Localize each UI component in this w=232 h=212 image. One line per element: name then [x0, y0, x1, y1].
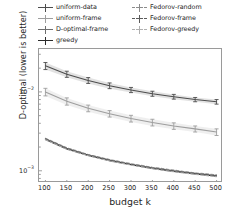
legend-entry-label: D-optimal-frame	[56, 26, 108, 33]
legend-entry-label: greedy	[56, 37, 78, 44]
chart-legend: uniform-datauniform-frameD-optimal-frame…	[38, 2, 232, 46]
legend-marker-icon	[38, 14, 53, 23]
series-line	[45, 139, 216, 176]
legend-entry-label: uniform-frame	[56, 15, 101, 22]
legend-marker-icon	[38, 36, 53, 45]
plot-area	[38, 48, 222, 182]
x-tick-label: 250	[102, 184, 115, 192]
legend-column-left: uniform-datauniform-frameD-optimal-frame…	[38, 2, 132, 13]
x-axis-label: budget k	[38, 196, 222, 207]
legend-marker-icon	[38, 3, 53, 12]
legend-entry-uniform-data[interactable]: uniform-data	[38, 2, 132, 13]
legend-entry-greedy[interactable]: greedy	[38, 35, 132, 46]
legend-column-right: Fedorov-randomFedorov-frameFedorov-greed…	[132, 2, 232, 13]
x-tick-label: 350	[145, 184, 158, 192]
x-tick-label: 500	[209, 184, 222, 192]
y-tick-label: 10−2	[19, 86, 34, 95]
legend-entry-uniform-frame[interactable]: uniform-frame	[38, 13, 132, 24]
series-line	[45, 66, 216, 102]
y-tick-label: 10−3	[19, 165, 34, 174]
legend-marker-icon	[132, 14, 147, 23]
legend-entry-fedorov-random[interactable]: Fedorov-random	[132, 2, 232, 13]
x-tick-label: 450	[188, 184, 201, 192]
x-tick-label: 200	[81, 184, 94, 192]
legend-marker-icon	[132, 25, 147, 34]
legend-entry-label: Fedorov-random	[150, 4, 202, 11]
chart-figure: uniform-datauniform-frameD-optimal-frame…	[0, 0, 232, 212]
legend-entry-fedorov-frame[interactable]: Fedorov-frame	[132, 13, 232, 24]
series-line	[45, 139, 216, 176]
x-axis-tick-labels: 100150200250300350400450500	[0, 184, 232, 196]
series-line	[45, 139, 216, 176]
legend-marker-icon	[38, 25, 53, 34]
y-axis-tick-labels: 10−210−3	[0, 0, 38, 212]
legend-entry-d-optimal-frame[interactable]: D-optimal-frame	[38, 24, 132, 35]
legend-entry-label: uniform-data	[56, 4, 97, 11]
legend-entry-label: Fedorov-greedy	[150, 26, 199, 33]
x-tick-label: 150	[60, 184, 73, 192]
legend-entry-label: Fedorov-frame	[150, 15, 196, 22]
series-line	[45, 140, 216, 177]
series-line	[45, 138, 216, 174]
x-tick-label: 300	[124, 184, 137, 192]
legend-marker-icon	[132, 3, 147, 12]
series-canvas	[39, 49, 222, 182]
x-tick-label: 400	[166, 184, 179, 192]
x-tick-label: 100	[38, 184, 51, 192]
legend-entry-fedorov-greedy[interactable]: Fedorov-greedy	[132, 24, 232, 35]
